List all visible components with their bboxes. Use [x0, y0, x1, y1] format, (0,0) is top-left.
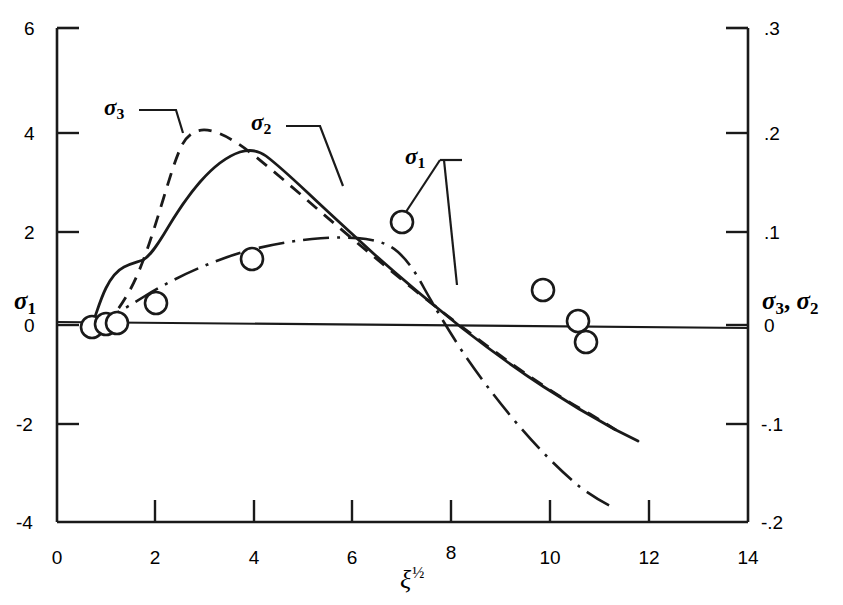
y-axis-right-title: σ3, σ2 [762, 288, 818, 317]
ytick-label-right-n1: -.1 [761, 415, 783, 434]
ytick-label-right-0: 0 [764, 316, 775, 335]
left-axis-ticks [57, 133, 79, 424]
curve-label-sigma1-symbol: σ [405, 144, 417, 169]
data-point [575, 331, 597, 353]
y-axis-right-title-separator: , [784, 287, 790, 314]
xtick-label-10: 10 [539, 548, 560, 567]
curve-label-sigma2-subscript: 2 [263, 120, 271, 137]
xtick-label-6: 6 [347, 548, 358, 567]
ytick-label-left-neg4: -4 [16, 513, 33, 532]
data-point [567, 310, 589, 332]
data-point [106, 312, 128, 334]
y-axis-left-title: σ1 [14, 288, 36, 317]
curve-label-sigma3: σ3 [104, 96, 124, 122]
xtick-label-8: 8 [446, 543, 457, 562]
zero-reference-line [57, 322, 748, 328]
curve-label-sigma2: σ2 [251, 111, 271, 137]
leader-sigma1-right [444, 160, 457, 285]
ytick-label-left-4: 4 [24, 124, 35, 143]
ytick-label-left-neg2: -2 [16, 415, 33, 434]
curve-label-sigma1: σ1 [405, 145, 425, 171]
x-axis-title: ξ½ [400, 565, 424, 593]
curve-label-sigma3-subscript: 3 [116, 105, 124, 122]
xtick-label-4: 4 [249, 548, 260, 567]
curve-label-sigma3-symbol: σ [104, 95, 116, 120]
axis-frame [57, 28, 748, 522]
xtick-label-12: 12 [638, 548, 659, 567]
series-sigma1-dashdot-curve [96, 238, 614, 509]
y-axis-right-title-subscript-a: 3 [775, 299, 784, 318]
y-axis-right-title-symbol-b: σ [796, 287, 809, 314]
data-point [532, 279, 554, 301]
data-point [145, 292, 167, 314]
right-axis-ticks [726, 133, 748, 424]
ytick-label-left-2: 2 [24, 223, 35, 242]
ytick-label-left-0: 0 [24, 316, 35, 335]
ytick-label-left-6: 6 [24, 19, 35, 38]
chart-figure: 6 4 2 0 -2 -4 .3 .2 .1 0 -.1 -.2 0 2 4 6… [0, 0, 843, 605]
xtick-label-0: 0 [52, 548, 63, 567]
data-point [241, 248, 263, 270]
series-sigma2-solid-curve [92, 150, 638, 441]
y-axis-left-title-subscript: 1 [27, 299, 36, 318]
leader-sigma3 [139, 110, 183, 133]
ytick-label-right-n2: -.2 [761, 513, 783, 532]
y-axis-left-title-symbol: σ [14, 287, 27, 314]
x-axis-ticks [155, 500, 649, 522]
ytick-label-right-p2: .2 [764, 124, 780, 143]
ytick-label-right-p3: .3 [764, 19, 780, 38]
chart-plot-area [0, 0, 843, 605]
leader-sigma2 [286, 126, 343, 186]
y-axis-right-title-symbol-a: σ [762, 287, 775, 314]
curve-label-sigma1-subscript: 1 [417, 154, 425, 171]
x-axis-title-base: ξ [400, 565, 411, 594]
y-axis-right-title-subscript-b: 2 [810, 299, 819, 318]
scatter-data-points [81, 211, 597, 353]
ytick-label-right-p1: .1 [764, 223, 780, 242]
x-axis-title-exponent: ½ [412, 564, 424, 581]
curve-label-sigma2-symbol: σ [251, 110, 263, 135]
data-point [391, 211, 413, 233]
xtick-label-14: 14 [737, 548, 758, 567]
xtick-label-2: 2 [150, 548, 161, 567]
